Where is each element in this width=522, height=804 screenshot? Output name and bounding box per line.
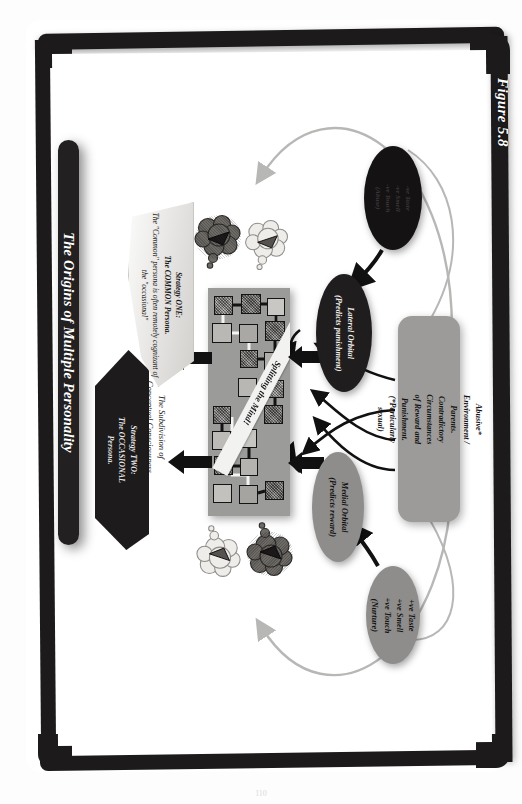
diagram-title-bar: The Origins of Multiple Personality [58,140,79,545]
figure-label: Figure 5.8 [492,52,512,172]
positive-senses-line1: +ve Taste [405,597,417,633]
mind-grid-cell [212,323,232,343]
strategy-two-subheading: The OCCASIONAL [116,360,128,540]
abusive-environment-line2: Contradictory Circumstances [423,388,448,450]
grid-output-arrow-left-2 [168,450,212,474]
medial-orbital-label: Medial Orbital (Predicts reward) [326,477,350,537]
subdivision-caption-line1: The Subdivision of [156,352,168,502]
node-lateral-orbital: Lateral Orbital (Predicts punishment) [316,274,372,392]
strategy-one-heading: Strategy ONE: [172,211,183,379]
abusive-environment-text: Abusive* Environment / Parents. Contradi… [374,388,485,450]
mind-grid-cell [239,485,258,504]
strategy-two-text: Strategy TWO: The OCCASIONAL Persona. [105,360,140,540]
abusive-environment-line3: of Reward and Punishment. [398,388,423,450]
negative-senses-label: -ve Taste -ve Smell -ve Touch (Abuse) [373,184,414,212]
mind-grid-cell [213,484,232,503]
positive-senses-label: +ve Taste +ve Smell +ve Touch (Nurture) [369,597,418,633]
mind-grid-cell [267,298,285,316]
mind-grid: Splitting the Mind! [208,288,290,516]
negative-senses-line1: -ve Taste [403,184,413,212]
medial-orbital-line2: (Predicts reward) [326,477,338,537]
page-number: 110 [0,789,522,798]
cloud-dark-top [193,214,243,272]
lateral-orbital-line2: (Predicts punishment) [332,295,344,372]
mind-grid-cell [240,458,258,476]
positive-senses-line2: +ve Smell [393,597,405,633]
negative-senses-line3: -ve Touch [383,184,393,212]
diagram-title-text: The Origins of Multiple Personality [60,232,77,453]
strategy-two-heading: Strategy TWO: [128,360,140,540]
lateral-orbital-label: Lateral Orbital (Predicts punishment) [332,295,356,372]
negative-senses-line4: (Abuse) [373,184,383,212]
cloud-light-bot [195,522,243,578]
mind-grid-cell [239,324,258,343]
node-medial-orbital: Medial Orbital (Predicts reward) [312,452,364,562]
mind-grid-cell [265,481,284,500]
abusive-environment-line4: (*Particularly sexual) [374,388,399,450]
lateral-orbital-line1: Lateral Orbital [344,295,356,372]
node-abusive-environment: Abusive* Environment / Parents. Contradi… [398,316,460,522]
mind-grid-cell [240,350,258,368]
node-negative-senses: -ve Taste -ve Smell -ve Touch (Abuse) [364,146,422,250]
figure-label-text: Figure 5.8 [494,77,511,146]
subdivision-caption: The Subdivision of Conceptual Consciousn… [148,352,168,502]
node-positive-senses: +ve Taste +ve Smell +ve Touch (Nurture) [366,566,420,664]
mind-grid-cell [214,296,233,315]
figure-page: Figure 5.8 The Origins of Multiple Perso… [0,0,522,804]
mind-grid-cell [241,294,261,314]
strategy-two-body: Persona. [105,360,117,540]
abusive-environment-line1: Abusive* Environment / Parents. [447,388,484,450]
positive-senses-line3: +ve Touch [381,597,393,633]
mind-grid-cell [264,405,283,424]
positive-senses-line4: (Nurture) [369,597,381,633]
negative-senses-line2: -ve Smell [393,184,403,212]
subdivision-caption-line2: Conceptual Consciousness [143,352,155,502]
mind-grid-cell [213,406,231,424]
medial-orbital-line1: Medial Orbital [338,477,350,537]
cloud-dark-bot [245,519,295,577]
cloud-light-top [243,219,291,273]
